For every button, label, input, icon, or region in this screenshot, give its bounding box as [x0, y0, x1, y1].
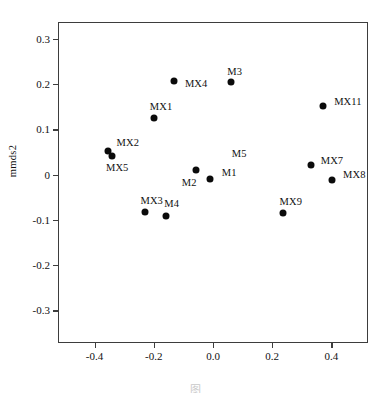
data-point: [192, 167, 199, 174]
x-axis-tick: [154, 342, 155, 348]
y-axis-tick-label: 0: [45, 169, 51, 180]
data-point-label: MX11: [334, 97, 361, 108]
y-axis-tick-label: 0.1: [36, 124, 50, 135]
data-point-label: M4: [164, 199, 179, 210]
y-axis-tick: [53, 39, 59, 40]
data-point: [320, 102, 327, 109]
y-axis-tick: [53, 265, 59, 266]
data-point-label: MX1: [150, 102, 172, 113]
data-point-label: MX7: [321, 156, 343, 167]
x-axis-tick-label: -0.2: [145, 351, 162, 362]
y-axis-tick-label: -0.2: [33, 260, 50, 271]
data-point-label: MX3: [140, 196, 162, 207]
data-point-label: MX4: [185, 79, 207, 90]
data-point: [228, 79, 235, 86]
x-axis-tick-label: 0.0: [206, 351, 220, 362]
y-axis-tick: [53, 175, 59, 176]
data-point-label: MX8: [343, 170, 365, 181]
y-axis-tick-label: 0.2: [36, 79, 50, 90]
y-axis-tick: [53, 84, 59, 85]
x-axis-tick-label: 0.2: [265, 351, 279, 362]
x-axis-tick: [95, 342, 96, 348]
x-axis-tick: [272, 342, 273, 348]
y-axis-tick-label: -0.1: [33, 214, 50, 225]
data-point-label: MX9: [280, 197, 302, 208]
y-axis-title: mmds2: [7, 145, 18, 177]
data-point-label: M3: [227, 67, 242, 78]
scatter-plot-figure: mmds2 MX4M3MX11MX1MX2MX5M5M2MX7M1MX8MX3M…: [0, 0, 390, 393]
data-point-label: M5: [232, 149, 247, 160]
plot-frame: MX4M3MX11MX1MX2MX5M5M2MX7M1MX8MX3MX9M4 0…: [58, 22, 368, 343]
data-point: [206, 176, 213, 183]
data-point: [142, 209, 149, 216]
data-point-label: MX5: [106, 163, 128, 174]
data-point: [170, 77, 177, 84]
y-axis-tick: [53, 129, 59, 130]
y-axis-tick: [53, 310, 59, 311]
data-point-label: M2: [182, 178, 197, 189]
y-axis-tick-label: -0.3: [33, 305, 50, 316]
y-axis-tick: [53, 220, 59, 221]
data-point: [163, 213, 170, 220]
figure-caption: 图: [0, 384, 390, 393]
x-axis-tick: [213, 342, 214, 348]
x-axis-tick-label: -0.4: [86, 351, 103, 362]
data-point-label: M1: [222, 168, 237, 179]
data-point: [279, 210, 286, 217]
data-point-label: MX2: [117, 138, 139, 149]
y-axis-tick-label: 0.3: [36, 33, 50, 44]
data-point: [109, 152, 116, 159]
data-point: [329, 177, 336, 184]
x-axis-tick: [331, 342, 332, 348]
plot-area: MX4M3MX11MX1MX2MX5M5M2MX7M1MX8MX3MX9M4: [59, 23, 367, 342]
x-axis-tick-label: 0.4: [325, 351, 339, 362]
data-point: [307, 161, 314, 168]
data-point: [150, 114, 157, 121]
